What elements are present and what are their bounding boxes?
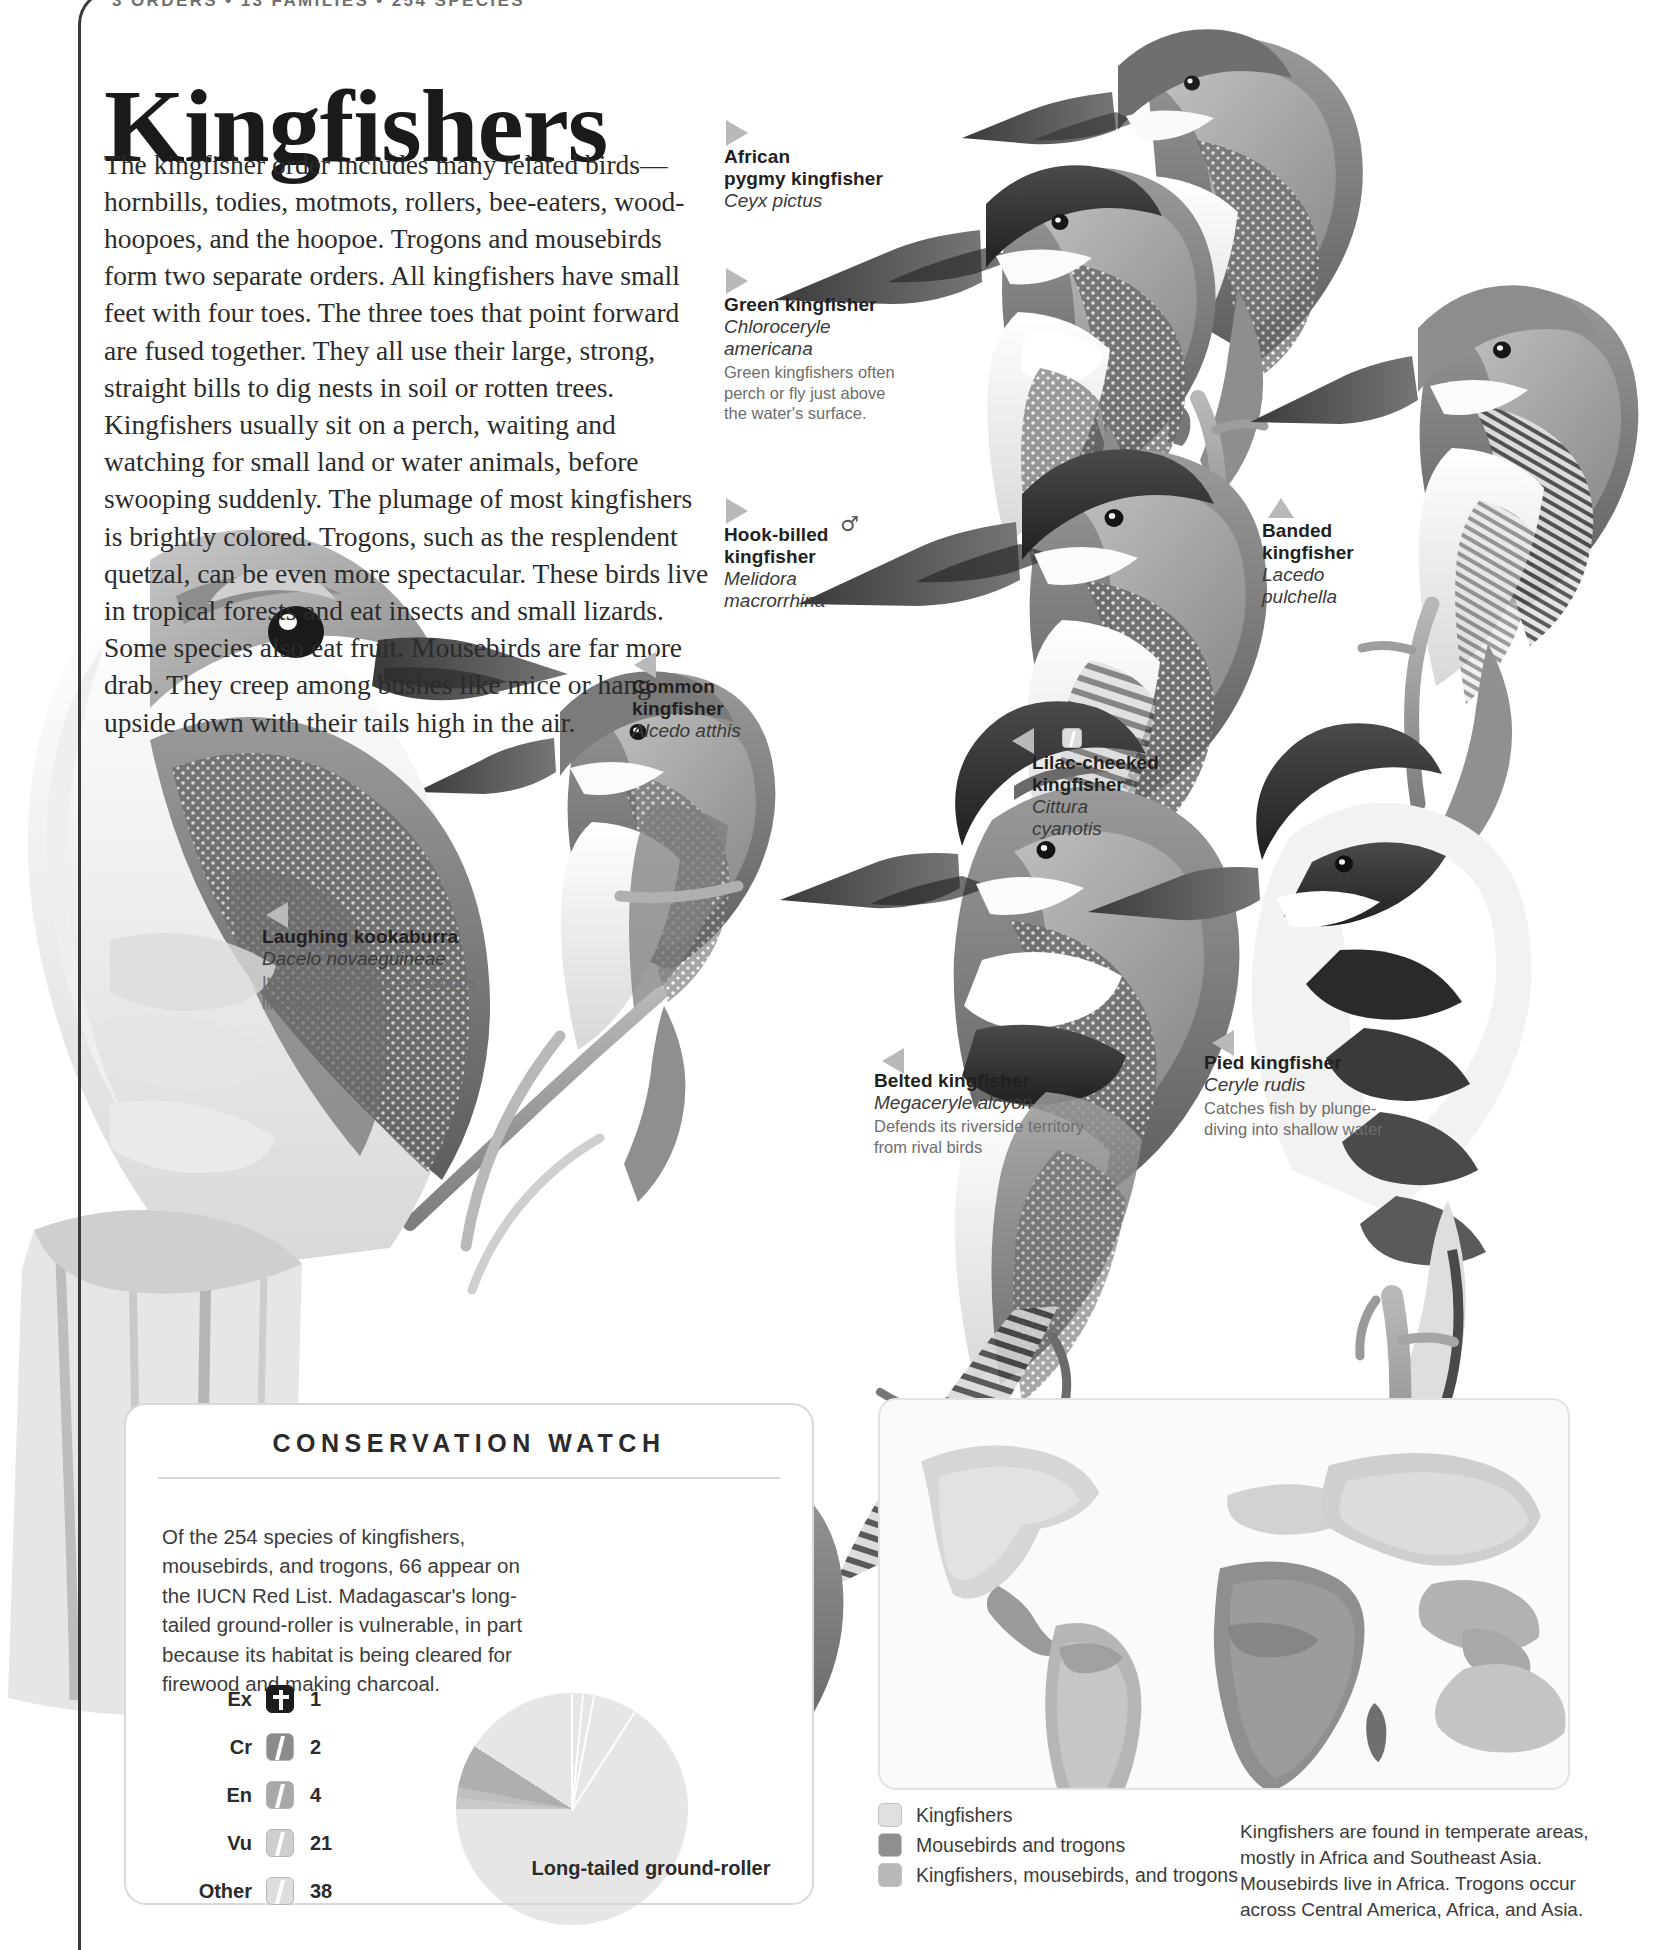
pointer-hook-billed-kingfisher xyxy=(726,498,748,524)
caption-green-kingfisher: Green kingfisher Chloroceryle americana … xyxy=(724,294,902,424)
species-scientific-name-line2: pulchella xyxy=(1262,586,1442,608)
species-common-name: Hook-billed xyxy=(724,524,904,546)
iucn-label: En xyxy=(166,1784,266,1807)
species-scientific-name: Ceryle rudis xyxy=(1204,1074,1404,1096)
iucn-row-other: Other 38 xyxy=(166,1867,416,1915)
iucn-row-ex: Ex 1 xyxy=(166,1675,416,1723)
iucn-count: 21 xyxy=(294,1832,332,1855)
species-common-name: African xyxy=(724,146,914,168)
caption-hook-billed-kingfisher: Hook-billed kingfisher Melidora macrorrh… xyxy=(724,524,904,612)
conservation-watch-panel: CONSERVATION WATCH Of the 254 species of… xyxy=(124,1403,814,1905)
iucn-pie-chart xyxy=(456,1693,688,1925)
map-legend-swatch-icon xyxy=(878,1833,902,1857)
map-legend-swatch-icon xyxy=(878,1863,902,1887)
conservation-watch-body: Of the 254 species of kingfishers, mouse… xyxy=(162,1522,552,1699)
species-scientific-name: Chloroceryle americana xyxy=(724,316,902,360)
pointer-banded-kingfisher xyxy=(1268,498,1294,518)
species-note: Defends its riverside territory from riv… xyxy=(874,1116,1084,1157)
iucn-row-cr: Cr 2 xyxy=(166,1723,416,1771)
iucn-count: 4 xyxy=(294,1784,321,1807)
caption-common-kingfisher: Common kingfisher Alcedo atthis xyxy=(632,676,822,742)
species-note: Catches fish by plunge-diving into shall… xyxy=(1204,1098,1404,1139)
iucn-status-list: Ex 1 Cr 2 En 4 Vu 21 Other xyxy=(166,1675,416,1915)
species-note: Green kingfishers often perch or fly jus… xyxy=(724,362,902,424)
iucn-badge-critical-icon xyxy=(266,1733,294,1761)
species-common-name: Lilac-cheeked xyxy=(1032,752,1222,774)
pointer-laughing-kookaburra xyxy=(266,902,288,928)
caption-belted-kingfisher: Belted kingfisher Megaceryle alcyon Defe… xyxy=(874,1070,1084,1157)
map-description: Kingfishers are found in temperate areas… xyxy=(1240,1819,1630,1923)
iucn-label: Cr xyxy=(166,1736,266,1759)
species-scientific-name: Alcedo atthis xyxy=(632,720,822,742)
species-scientific-name: Lacedo xyxy=(1262,564,1442,586)
species-common-name-line2: kingfisher xyxy=(1262,542,1442,564)
pointer-common-kingfisher xyxy=(634,652,656,678)
ground-roller-caption: Long-tailed ground-roller xyxy=(506,1857,796,1880)
species-scientific-name-line2: macrorrhina xyxy=(724,590,904,612)
iucn-badge-other-icon xyxy=(266,1877,294,1905)
species-note: Its distinctive loud cry sounds like lau… xyxy=(262,972,492,1013)
map-legend-item-kingfishers: Kingfishers xyxy=(878,1800,1238,1830)
caption-banded-kingfisher: Banded kingfisher Lacedo pulchella xyxy=(1262,520,1442,608)
map-legend: Kingfishers Mousebirds and trogons Kingf… xyxy=(878,1800,1238,1890)
pointer-lilac-cheeked-kingfisher xyxy=(1012,728,1034,754)
divider xyxy=(158,1477,780,1479)
species-common-name: Pied kingfisher xyxy=(1204,1052,1404,1074)
iucn-row-vu: Vu 21 xyxy=(166,1819,416,1867)
world-map-svg xyxy=(880,1400,1568,1788)
pointer-african-pygmy-kingfisher xyxy=(726,120,748,146)
species-scientific-name: Dacelo novaeguineae xyxy=(262,948,492,970)
running-head: 3 ORDERS • 13 FAMILIES • 254 SPECIES xyxy=(112,0,525,11)
species-common-name: Laughing kookaburra xyxy=(262,926,492,948)
caption-laughing-kookaburra: Laughing kookaburra Dacelo novaeguineae … xyxy=(262,926,492,1013)
species-common-name-line2: kingfisher xyxy=(632,698,822,720)
iucn-badge-extinct-icon xyxy=(266,1685,294,1713)
caption-lilac-cheeked-kingfisher: Lilac-cheeked kingfisher Cittura cyanoti… xyxy=(1032,752,1222,840)
iucn-count: 2 xyxy=(294,1736,321,1759)
iucn-status-badge-lilac-cheeked xyxy=(1062,728,1082,748)
iucn-count: 1 xyxy=(294,1688,321,1711)
species-scientific-name-line2: cyanotis xyxy=(1032,818,1222,840)
species-common-name: Belted kingfisher xyxy=(874,1070,1084,1092)
map-legend-label: Kingfishers xyxy=(902,1804,1012,1827)
iucn-label: Other xyxy=(166,1880,266,1903)
species-scientific-name: Cittura xyxy=(1032,796,1222,818)
species-scientific-name: Megaceryle alcyon xyxy=(874,1092,1084,1114)
iucn-count: 38 xyxy=(294,1880,332,1903)
species-common-name: Green kingfisher xyxy=(724,294,902,316)
iucn-label: Vu xyxy=(166,1832,266,1855)
species-scientific-name: Ceyx pictus xyxy=(724,190,914,212)
species-common-name-line2: kingfisher xyxy=(724,546,904,568)
map-legend-item-mousebirds-trogons: Mousebirds and trogons xyxy=(878,1830,1238,1860)
caption-african-pygmy-kingfisher: African pygmy kingfisher Ceyx pictus xyxy=(724,146,914,212)
iucn-badge-vulnerable-icon xyxy=(266,1829,294,1857)
intro-paragraph: The kingfisher order includes many relat… xyxy=(104,146,716,741)
caption-pied-kingfisher: Pied kingfisher Ceryle rudis Catches fis… xyxy=(1204,1052,1404,1139)
map-legend-label: Mousebirds and trogons xyxy=(902,1834,1125,1857)
species-common-name-line2: pygmy kingfisher xyxy=(724,168,914,190)
species-common-name-line2: kingfisher xyxy=(1032,774,1222,796)
map-legend-item-all: Kingfishers, mousebirds, and trogons xyxy=(878,1860,1238,1890)
iucn-label: Ex xyxy=(166,1688,266,1711)
pointer-green-kingfisher xyxy=(726,268,748,294)
species-scientific-name: Melidora xyxy=(724,568,904,590)
species-common-name: Common xyxy=(632,676,822,698)
map-legend-label: Kingfishers, mousebirds, and trogons xyxy=(902,1864,1238,1887)
species-common-name: Banded xyxy=(1262,520,1442,542)
iucn-row-en: En 4 xyxy=(166,1771,416,1819)
iucn-badge-endangered-icon xyxy=(266,1781,294,1809)
conservation-watch-title: CONSERVATION WATCH xyxy=(126,1429,812,1458)
map-legend-swatch-icon xyxy=(878,1803,902,1827)
distribution-map xyxy=(878,1398,1570,1790)
